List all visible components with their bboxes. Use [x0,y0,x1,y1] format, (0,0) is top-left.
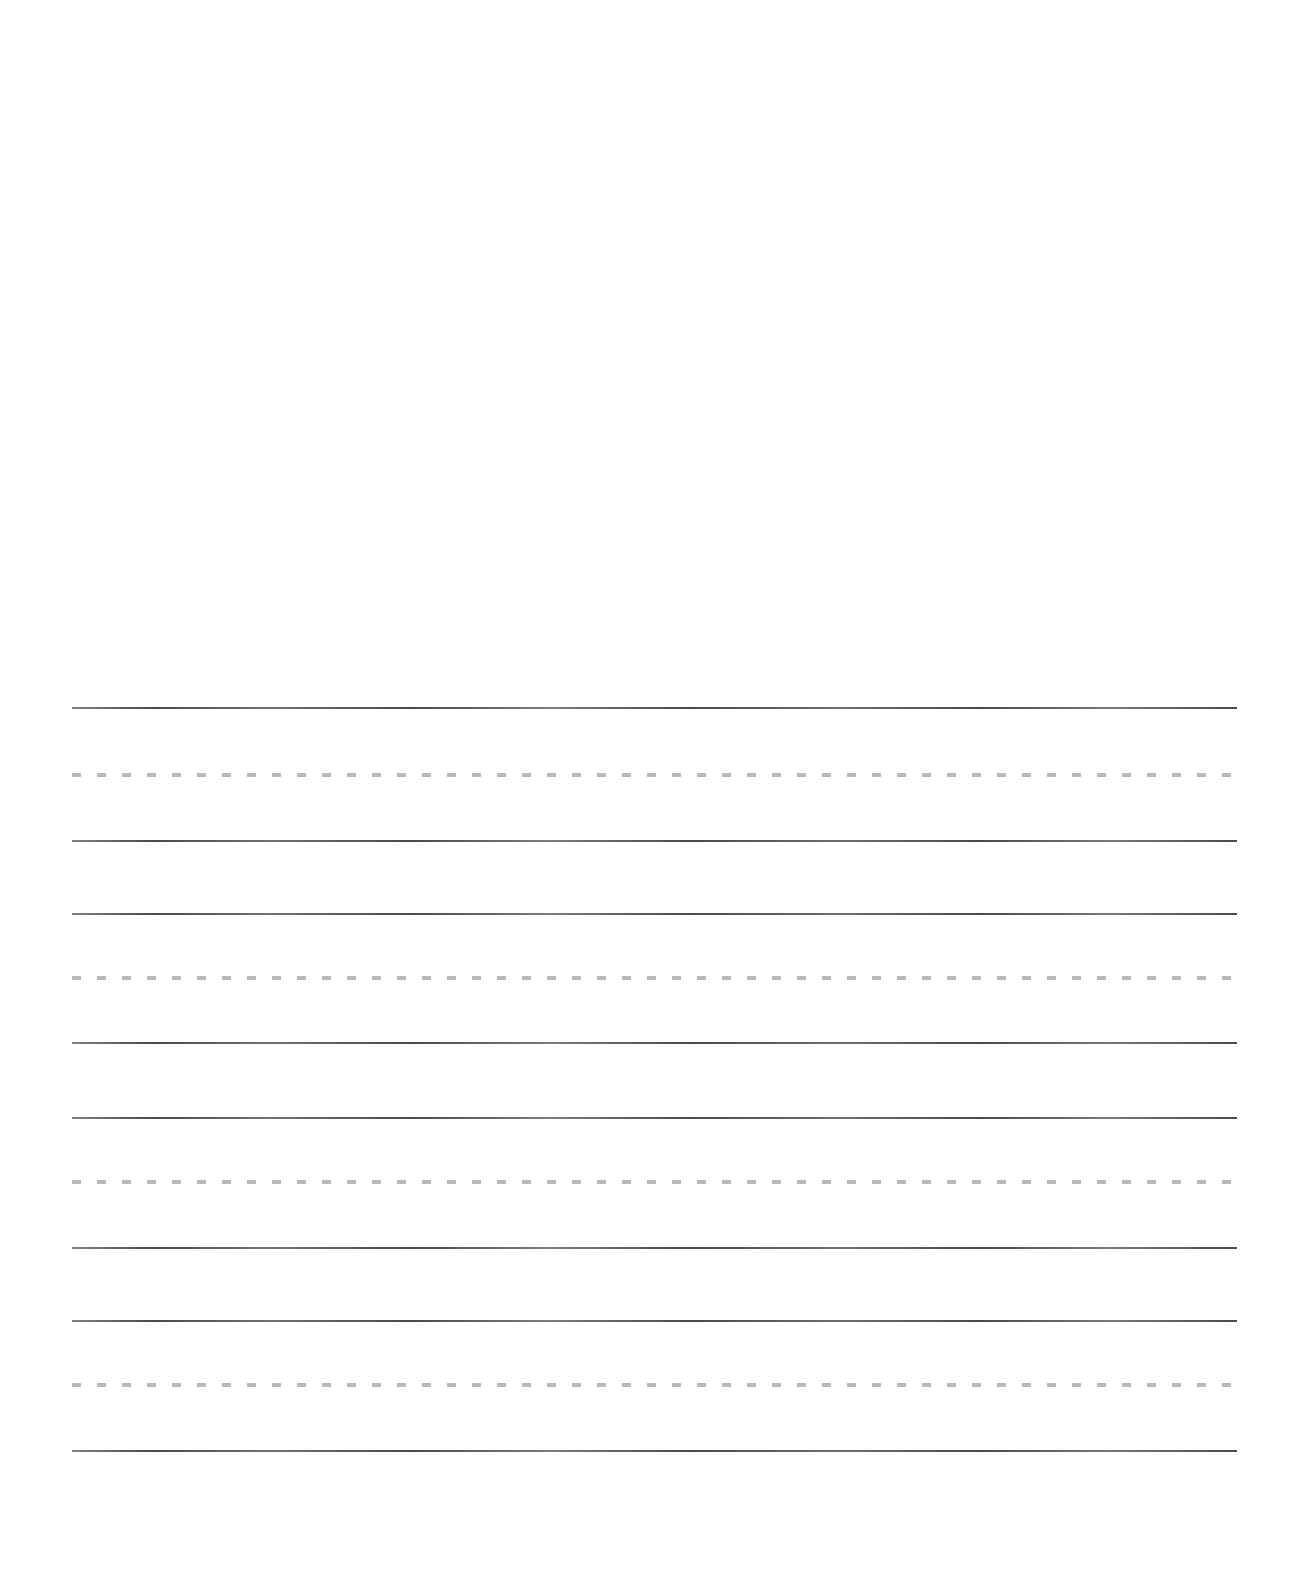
mid-dashed-rule-4 [72,1383,1237,1387]
top-rule-1 [72,707,1237,709]
top-rule-4 [72,1320,1237,1322]
baseline-rule-4 [72,1450,1237,1452]
top-rule-3 [72,1117,1237,1119]
baseline-rule-1 [72,840,1237,842]
blank-top-area[interactable] [0,0,1307,700]
top-rule-2 [72,913,1237,915]
mid-dashed-rule-2 [72,976,1237,980]
worksheet-page [0,0,1307,1573]
baseline-rule-2 [72,1042,1237,1044]
mid-dashed-rule-1 [72,773,1237,777]
baseline-rule-3 [72,1247,1237,1249]
mid-dashed-rule-3 [72,1180,1237,1184]
